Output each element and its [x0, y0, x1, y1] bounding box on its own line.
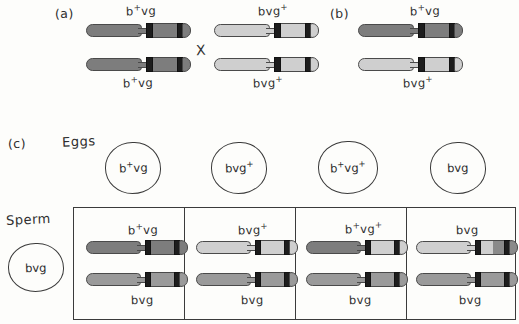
sperm-gamete[interactable]: bvg	[8, 243, 64, 292]
egg-gamete-3-label: b+vg+	[330, 160, 366, 175]
sperm-label: Sperm	[6, 211, 51, 228]
egg-gamete-1[interactable]: b+vg	[105, 142, 161, 194]
chromosome-tip	[289, 272, 298, 287]
chromosome-left-arm	[306, 273, 361, 286]
panel-b-label: (b)	[330, 6, 349, 21]
chromosome-tip	[509, 272, 518, 287]
chromosome-band-1	[418, 57, 425, 72]
panel-a-left-parent-top-label: b+vg	[126, 4, 157, 19]
panel-a-right-parent-top-label: bvg+	[258, 4, 289, 19]
egg-gamete-2-label: bvg+	[224, 161, 253, 176]
chromosome-mid-segment	[153, 23, 177, 38]
eggs-label: Eggs	[62, 133, 96, 149]
offspring-2-chromosome-bottom	[196, 272, 298, 287]
chromosome-tip	[310, 23, 319, 38]
chromosome-left-arm	[306, 241, 361, 254]
chromosome-band-1	[146, 23, 153, 38]
chromosome-left-arm	[214, 58, 270, 71]
chromosome-left-arm	[416, 273, 471, 286]
offspring-4-top-label: bvg	[456, 223, 479, 238]
panel-a-left-parent-bottom-label: b+vg	[123, 76, 154, 91]
chromosome-tip	[289, 240, 298, 255]
chromosome-left-arm	[358, 58, 414, 71]
panel-b-bottom-label: bvg+	[403, 76, 434, 91]
offspring-1-bottom-label: bvg	[131, 293, 154, 308]
offspring-3-bottom-label: bvg	[349, 293, 372, 308]
offspring-4-bottom-label: bvg	[459, 293, 482, 308]
panel-b-chromosome-bottom	[358, 57, 463, 72]
panel-a-right-chromosome-top	[214, 23, 319, 38]
chromosome-mid-segment	[425, 23, 449, 38]
panel-a-right-parent-bottom-label: bvg+	[253, 76, 284, 91]
chromosome-mid-segment	[151, 272, 174, 287]
panel-a-left-chromosome-top	[86, 23, 191, 38]
chromosome-mid-segment	[261, 240, 284, 255]
chromosome-recombinant-segment	[371, 240, 394, 255]
offspring-1-chromosome-bottom	[86, 272, 188, 287]
egg-gamete-4[interactable]: bvg	[430, 142, 486, 194]
panel-b-top-label: b+vg	[410, 4, 441, 19]
chromosome-band-1	[274, 23, 281, 38]
offspring-1-chromosome-top	[86, 240, 188, 255]
chromosome-tip	[454, 23, 463, 38]
chromosome-tip	[399, 240, 408, 255]
chromosome-mid-segment	[425, 57, 449, 72]
offspring-2-top-label: bvg+	[238, 223, 269, 238]
offspring-4-chromosome-top	[416, 240, 518, 255]
chromosome-mid-segment	[481, 272, 504, 287]
chromosome-mid-segment	[151, 240, 174, 255]
chromosome-left-arm	[86, 58, 142, 71]
chromosome-mid-segment	[493, 240, 504, 255]
chromosome-tip	[454, 57, 463, 72]
offspring-3-top-label: b+vg+	[345, 221, 383, 236]
chromosome-mid-segment	[153, 57, 177, 72]
sperm-gamete-label: bvg	[25, 260, 47, 275]
cross-symbol: X	[196, 42, 206, 58]
offspring-2-bottom-label: bvg	[241, 293, 264, 308]
egg-gamete-3[interactable]: b+vg+	[318, 141, 378, 194]
chromosome-left-arm	[196, 241, 251, 254]
chromosome-left-arm	[86, 273, 141, 286]
chromosome-left-arm	[86, 24, 142, 37]
chromosome-left-arm	[214, 24, 270, 37]
figure-canvas: (a) b+vg b+vg X bvg+	[0, 0, 519, 324]
chromosome-band-1	[418, 23, 425, 38]
chromosome-left-arm	[196, 273, 251, 286]
chromosome-left-arm	[86, 241, 141, 254]
chromosome-tip	[310, 57, 319, 72]
chromosome-tip	[399, 272, 408, 287]
chromosome-tip	[182, 23, 191, 38]
chromosome-left-arm	[358, 24, 414, 37]
chromosome-tip	[179, 240, 188, 255]
chromosome-mid-segment	[371, 272, 394, 287]
chromosome-mid-segment	[281, 23, 305, 38]
panel-b-chromosome-top	[358, 23, 463, 38]
panel-c-label: (c)	[8, 136, 26, 151]
grid-divider-1	[184, 208, 185, 319]
chromosome-tip	[182, 57, 191, 72]
offspring-2-chromosome-top	[196, 240, 298, 255]
chromosome-left-arm	[416, 241, 471, 254]
egg-gamete-2[interactable]: bvg+	[211, 142, 267, 194]
egg-gamete-4-label: bvg	[447, 161, 469, 176]
chromosome-tip	[509, 240, 518, 255]
panel-a-label: (a)	[55, 6, 74, 21]
chromosome-band-1	[146, 57, 153, 72]
grid-divider-2	[295, 208, 296, 319]
chromosome-recombinant-segment	[481, 240, 493, 255]
egg-gamete-1-label: b+vg	[118, 161, 147, 176]
panel-a-left-chromosome-bottom	[86, 57, 191, 72]
chromosome-tip	[179, 272, 188, 287]
chromosome-band-1	[274, 57, 281, 72]
offspring-4-chromosome-bottom	[416, 272, 518, 287]
offspring-1-top-label: b+vg	[128, 223, 159, 238]
grid-divider-3	[406, 208, 407, 319]
panel-a-right-chromosome-bottom	[214, 57, 319, 72]
chromosome-mid-segment	[281, 57, 305, 72]
offspring-3-chromosome-top	[306, 240, 408, 255]
offspring-3-chromosome-bottom	[306, 272, 408, 287]
chromosome-mid-segment	[261, 272, 284, 287]
